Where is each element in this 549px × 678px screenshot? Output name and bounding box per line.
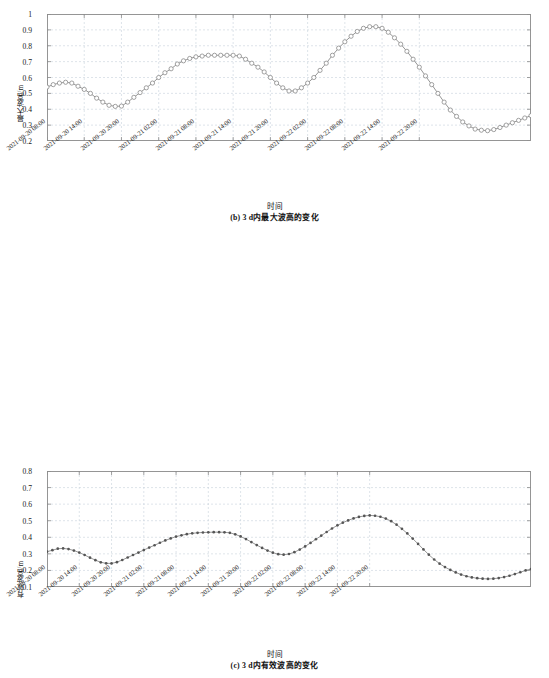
y-tick-label: 0.9	[6, 25, 32, 34]
panel-period: 周期/s 1.61.822.22.42.62.83 2021-09-20 08:…	[0, 445, 549, 678]
y-tick-label: 0.4	[6, 105, 32, 114]
y-tick-label: 0.8	[6, 41, 32, 50]
panel-b-caption: (b) 3 d内最大波高的变化	[0, 211, 549, 222]
y-tick-label: 0.6	[6, 73, 32, 82]
panel-b-xlabel: 时间	[0, 200, 549, 211]
y-tick-label: 0.7	[6, 57, 32, 66]
panel-max-wave-height: 最大波高/m 0.20.30.40.50.60.70.80.91 2021-09…	[0, 0, 549, 230]
y-tick-label: 0.5	[6, 89, 32, 98]
panel-significant-wave-height: 有效波高/m 0.10.20.30.40.50.60.70.8 2021-09-…	[0, 230, 549, 445]
y-tick-label: 1	[6, 10, 32, 19]
figure-wave-timeseries: 最大波高/m 0.20.30.40.50.60.70.80.91 2021-09…	[0, 0, 549, 678]
